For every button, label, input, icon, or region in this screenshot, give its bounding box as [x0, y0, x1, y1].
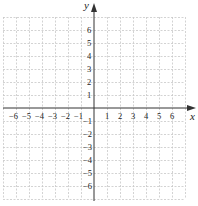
- x-tick-label: 3: [131, 112, 135, 121]
- x-tick-label: −3: [48, 112, 57, 121]
- y-tick-label: −4: [83, 156, 92, 165]
- y-axis-arrow-icon: [91, 3, 97, 12]
- y-tick-label: 3: [87, 65, 91, 74]
- y-tick-label: −1: [83, 117, 92, 126]
- x-tick-label: 4: [144, 112, 148, 121]
- y-tick-label: 1: [87, 91, 91, 100]
- y-tick-label: −3: [83, 143, 92, 152]
- y-tick-label: 4: [87, 52, 91, 61]
- x-tick-label: 5: [157, 112, 161, 121]
- y-tick-label: 2: [87, 78, 91, 87]
- y-axis-label: y: [84, 0, 89, 11]
- y-tick-label: −2: [83, 130, 92, 139]
- x-tick-label: 6: [170, 112, 174, 121]
- x-tick-label: −5: [22, 112, 31, 121]
- x-tick-label: −1: [74, 112, 83, 121]
- x-tick-label: −4: [35, 112, 44, 121]
- x-tick-label: 2: [118, 112, 122, 121]
- x-tick-label: 1: [105, 112, 109, 121]
- y-tick-label: −6: [83, 182, 92, 191]
- y-tick-label: 6: [87, 26, 91, 35]
- x-tick-label: −2: [61, 112, 70, 121]
- x-tick-label: −6: [9, 112, 18, 121]
- coordinate-plane: [0, 0, 198, 206]
- y-tick-label: 5: [87, 39, 91, 48]
- x-axis-label: x: [190, 111, 195, 122]
- y-tick-label: −5: [83, 169, 92, 178]
